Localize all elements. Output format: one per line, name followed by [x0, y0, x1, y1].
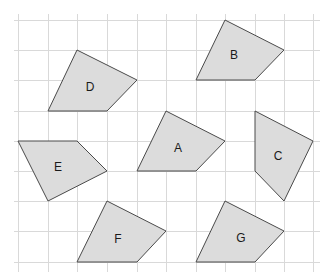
shapes-layer: ABCDEFG: [18, 20, 313, 262]
shape-label: G: [236, 231, 245, 245]
shape-label: C: [274, 149, 283, 163]
shape-label: F: [114, 232, 121, 246]
shape-label: A: [174, 141, 182, 155]
grid-diagram: ABCDEFG: [0, 0, 332, 278]
shape-label: E: [54, 160, 62, 174]
shape-label: B: [230, 48, 238, 62]
shape-label: D: [86, 80, 95, 94]
